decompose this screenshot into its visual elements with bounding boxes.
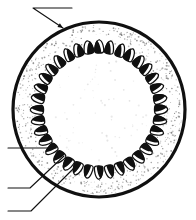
- figure-root: [0, 0, 196, 220]
- cross-section-diagram: [0, 0, 196, 220]
